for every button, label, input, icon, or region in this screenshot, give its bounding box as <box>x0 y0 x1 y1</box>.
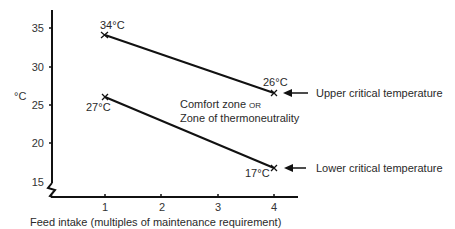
chart: 35 30 25 20 15 °C 1 2 3 4 Feed intake (m… <box>0 0 455 229</box>
arrow-left-icon <box>284 164 293 172</box>
comfort-zone-annotation: Comfort zone OR Zone of thermoneutrality <box>180 98 300 124</box>
x-axis: 1 2 3 4 Feed intake (multiples of mainte… <box>30 194 298 228</box>
zone-text: Comfort zone <box>180 98 249 110</box>
y-tick-20: 20 <box>32 137 44 149</box>
y-tick-15: 15 <box>32 176 44 188</box>
y-axis-label: °C <box>14 90 26 102</box>
x-tick-2: 2 <box>159 201 165 213</box>
y-tick-35: 35 <box>32 22 44 34</box>
upper-critical-line: 34°C 26°C <box>100 19 288 96</box>
x-tick-1: 1 <box>102 201 108 213</box>
x-axis-label: Feed intake (multiples of maintenance re… <box>30 216 281 228</box>
lower-critical-annotation: Lower critical temperature <box>284 162 443 174</box>
svg-text:Comfort zone OR: Comfort zone OR <box>180 98 261 110</box>
point-label-lower-end: 17°C <box>245 167 270 179</box>
y-axis: 35 30 25 20 15 °C <box>14 10 55 197</box>
axis-break-icon <box>48 183 55 197</box>
lower-critical-label: Lower critical temperature <box>316 162 443 174</box>
point-label-lower-start: 27°C <box>86 101 111 113</box>
x-tick-4: 4 <box>271 201 277 213</box>
x-tick-3: 3 <box>215 201 221 213</box>
upper-critical-label: Upper critical temperature <box>316 87 443 99</box>
upper-critical-annotation: Upper critical temperature <box>283 87 443 99</box>
y-tick-30: 30 <box>32 61 44 73</box>
point-label-upper-start: 34°C <box>100 19 125 31</box>
zone-or: OR <box>249 101 261 110</box>
y-tick-25: 25 <box>32 99 44 111</box>
point-label-upper-end: 26°C <box>263 76 288 88</box>
zone-text-2: Zone of thermoneutrality <box>180 112 300 124</box>
arrow-left-icon <box>283 89 292 97</box>
